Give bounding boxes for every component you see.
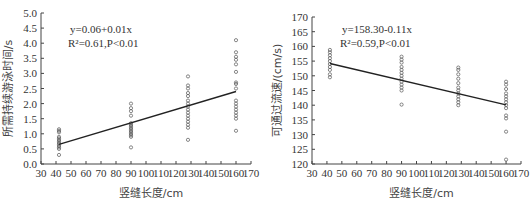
x-tick-label: 70	[366, 167, 378, 179]
chart-flow-velocity: 1201251301351401451501551601651703040506…	[265, 0, 530, 204]
x-tick-label: 30	[307, 167, 319, 179]
data-point	[186, 75, 189, 78]
data-point	[457, 77, 460, 80]
y-tick-label: 2.5	[23, 83, 37, 95]
x-tick-label: 80	[381, 167, 393, 179]
data-point	[400, 103, 403, 106]
data-point	[234, 39, 237, 42]
chart-svg: 0.00.51.01.52.02.53.03.54.04.55.03040506…	[0, 0, 265, 204]
data-point	[186, 138, 189, 141]
x-tick-label: 40	[321, 167, 333, 179]
data-point	[234, 87, 237, 90]
data-point	[457, 82, 460, 85]
data-point	[504, 87, 507, 90]
x-tick-label: 40	[51, 167, 63, 179]
regression-stats: R²=0.61,P<0.01	[68, 37, 138, 49]
x-tick-label: 90	[126, 167, 138, 179]
x-tick-label: 170	[513, 167, 530, 179]
y-axis-title: 可通过流速/(cm/s)	[270, 44, 284, 138]
data-point	[504, 130, 507, 133]
y-tick-label: 4.5	[23, 22, 37, 34]
data-point	[328, 48, 331, 51]
y-tick-label: 145	[292, 85, 309, 97]
data-point	[504, 158, 507, 161]
x-tick-label: 80	[111, 167, 123, 179]
data-point	[457, 66, 460, 69]
data-point	[234, 51, 237, 54]
regression-line	[330, 63, 506, 104]
regression-equation: y=158.30-0.11x	[342, 23, 412, 35]
y-tick-label: 170	[292, 11, 309, 23]
y-tick-label: 130	[292, 129, 309, 141]
data-point	[234, 63, 237, 66]
data-point	[234, 70, 237, 73]
y-tick-label: 1.0	[23, 128, 37, 140]
y-tick-label: 1.5	[23, 113, 37, 125]
x-tick-label: 60	[351, 167, 363, 179]
x-axis-title: 竖缝长度/cm	[389, 186, 453, 200]
x-tick-label: 90	[396, 167, 408, 179]
data-point	[129, 102, 132, 105]
data-point	[129, 114, 132, 117]
x-tick-label: 50	[66, 167, 78, 179]
y-tick-label: 0.5	[23, 143, 37, 155]
y-tick-label: 5.0	[23, 7, 37, 19]
x-tick-label: 170	[243, 167, 260, 179]
data-point	[457, 73, 460, 76]
y-tick-label: 135	[292, 114, 309, 126]
y-tick-label: 155	[292, 55, 309, 67]
data-point	[234, 129, 237, 132]
x-tick-label: 60	[81, 167, 93, 179]
x-axis-title: 竖缝长度/cm	[119, 186, 183, 200]
chart-swim-time: 0.00.51.01.52.02.53.03.54.04.55.03040506…	[0, 0, 265, 204]
y-tick-label: 2.0	[23, 98, 37, 110]
data-point	[57, 153, 60, 156]
y-tick-label: 165	[292, 26, 309, 38]
y-tick-label: 3.5	[23, 52, 37, 64]
y-tick-label: 150	[292, 70, 309, 82]
y-axis-title: 所需持续游泳时间/s	[1, 40, 15, 138]
chart-svg: 1201251301351401451501551601651703040506…	[265, 0, 530, 204]
x-tick-label: 50	[336, 167, 348, 179]
y-tick-label: 140	[292, 99, 309, 111]
regression-line	[59, 92, 236, 145]
y-tick-label: 3.0	[23, 67, 37, 79]
y-tick-label: 125	[292, 143, 309, 155]
regression-stats: R²=0.59,P<0.01	[340, 37, 410, 49]
regression-equation: y=0.06+0.01x	[70, 23, 132, 35]
data-point	[129, 146, 132, 149]
x-tick-label: 30	[36, 167, 48, 179]
x-tick-label: 70	[96, 167, 108, 179]
y-tick-label: 4.0	[23, 37, 37, 49]
y-tick-label: 160	[292, 40, 309, 52]
